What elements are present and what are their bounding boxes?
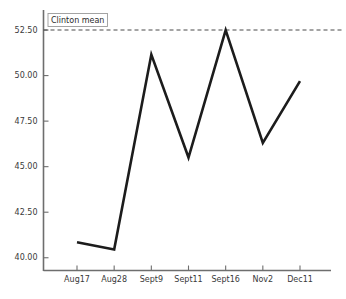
x-tick-label: Dec11 [287,275,313,284]
y-tick-label: 45.00 [15,162,38,171]
x-tick-label: Sept16 [211,275,239,284]
x-tick-label: Sept9 [140,275,163,284]
line-chart: 40.0042.5045.0047.5050.0052.50 Aug17Aug2… [0,0,346,299]
annotation-group: Clinton mean [48,14,107,27]
y-tick-label: 42.50 [15,208,38,217]
chart-canvas: 40.0042.5045.0047.5050.0052.50 Aug17Aug2… [0,0,346,299]
x-tick-label: Nov2 [252,275,273,284]
y-tick-label: 47.50 [15,117,38,126]
x-tick-label: Aug28 [101,275,127,284]
y-tick-label: 40.00 [15,253,38,262]
y-tick-label: 52.50 [15,26,38,35]
x-tick-label: Aug17 [64,275,90,284]
clinton-mean-label: Clinton mean [51,16,104,25]
chart-background [0,0,346,299]
x-tick-label: Sept11 [174,275,202,284]
y-tick-label: 50.00 [15,71,38,80]
